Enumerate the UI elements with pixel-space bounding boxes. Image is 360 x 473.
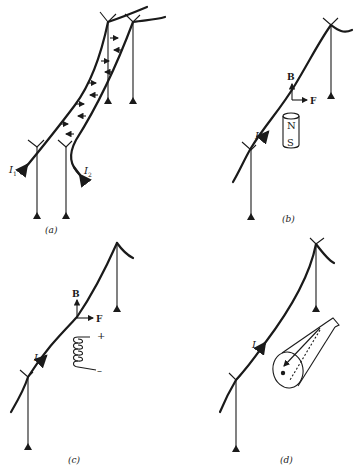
span-1 — [108, 7, 147, 22]
label-coil-minus: – — [97, 365, 102, 376]
label-south: S — [287, 137, 294, 148]
beam-spot — [281, 371, 285, 375]
wire-1 — [21, 22, 108, 173]
force-arrows — [60, 38, 122, 134]
label-field: B — [72, 289, 80, 299]
panel-c: I B F + – (c) — [11, 243, 133, 465]
post-foot-left — [247, 213, 255, 220]
post-foot-right — [327, 92, 335, 99]
post-foot-right — [113, 305, 121, 312]
post-foot-left — [24, 443, 32, 450]
label-coil-plus: + — [97, 330, 105, 341]
span — [117, 243, 133, 258]
label-current-1-sub: 1 — [13, 170, 17, 177]
label-force: F — [310, 96, 317, 106]
label-force: F — [96, 314, 103, 324]
label-north: N — [287, 120, 296, 131]
panel-a: I 1 I 2 (a) — [8, 7, 165, 235]
caption-d: (d) — [280, 455, 293, 465]
insulator-bottom-1 — [28, 140, 44, 147]
wire — [11, 243, 117, 412]
panel-b: I B F N S (b) — [233, 18, 352, 224]
current-arrow — [260, 343, 265, 350]
post-foot-left — [232, 445, 240, 452]
post-foot-2 — [62, 212, 70, 219]
cathode-ray-tube — [270, 318, 339, 390]
insulator-top — [310, 238, 324, 244]
current-arrow — [262, 132, 268, 139]
span — [316, 244, 334, 263]
post-foot-4 — [129, 97, 137, 104]
panel-d: I (d) — [220, 238, 339, 465]
caption-c: (c) — [68, 455, 81, 465]
caption-b: (b) — [282, 214, 295, 224]
caption-a: (a) — [45, 225, 58, 235]
post-foot-right — [312, 305, 320, 312]
post-foot-1 — [33, 212, 41, 219]
current-arrow-1 — [21, 165, 27, 173]
wire — [220, 244, 316, 412]
insulator-top — [323, 18, 338, 25]
figure-canvas: I 1 I 2 (a) I B F N S (b) — [0, 0, 360, 473]
post-foot-3 — [104, 97, 112, 104]
span — [331, 25, 352, 32]
label-field: B — [287, 72, 295, 82]
label-current-2-sub: 2 — [88, 171, 92, 178]
coil — [74, 337, 97, 370]
label-current: I — [251, 339, 257, 350]
insulator-bottom — [229, 373, 241, 380]
current-arrow-2 — [74, 167, 80, 175]
insulator-bottom-2 — [58, 140, 72, 147]
